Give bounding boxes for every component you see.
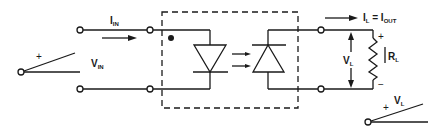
output-minus-sign: −: [378, 79, 384, 90]
output-current-arrow-icon: [325, 15, 358, 21]
input-current-label: IIN: [110, 15, 119, 27]
pin1-dot-icon: [168, 35, 174, 41]
output-current-label: IL = IOUT: [363, 12, 397, 24]
lever-plus-sign: +: [383, 102, 389, 113]
output-plus-sign: +: [378, 31, 384, 42]
input-top-wire: [77, 27, 210, 45]
load-resistor-icon: [369, 38, 377, 80]
input-bottom-wire: [77, 72, 210, 92]
led-emitter-icon: [193, 45, 228, 72]
photodiode-detector-icon: [252, 30, 286, 89]
input-lever-symbol: [18, 53, 80, 75]
input-voltage-label: VIN: [91, 58, 104, 70]
input-plus-sign: +: [36, 51, 42, 62]
optocoupler-diagram: + IIN VIN: [0, 0, 441, 134]
input-current-arrow-icon: [102, 35, 137, 41]
light-emission-arrows-icon: [232, 52, 251, 68]
load-resistor-label: RL: [388, 51, 399, 63]
output-lever-symbol: [365, 104, 428, 125]
output-top-wire: [268, 27, 373, 38]
output-bottom-wire: [268, 80, 373, 92]
output-voltage-label: VL: [343, 55, 354, 67]
lever-voltage-label: VL: [394, 95, 405, 107]
